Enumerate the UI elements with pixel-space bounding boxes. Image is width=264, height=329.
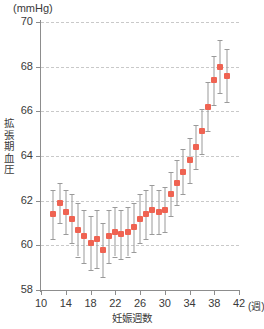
error-bar-cap [88,216,93,217]
error-bar-cap [63,190,68,191]
error-bar-cap [76,257,81,258]
error-bar-cap [107,263,112,264]
y-axis-tick [36,111,41,112]
data-point [94,236,100,242]
y-axis-tick-label: 68 [21,60,33,72]
y-axis-title: 拡張期血圧 [2,118,16,176]
data-point [106,233,112,239]
error-bar-cap [193,169,198,170]
error-bar-cap [113,207,118,208]
data-point [149,207,155,213]
data-point [131,224,137,230]
x-axis-tick-label: 34 [183,297,195,309]
error-bar-cap [181,149,186,150]
error-bar-cap [175,160,180,161]
data-point [180,169,186,175]
error-bar-cap [57,183,62,184]
x-axis-tick-label: 42 [233,297,245,309]
error-bar-cap [107,210,112,211]
error-bar-cap [150,234,155,235]
data-point [224,73,230,79]
x-axis-tick-label: 10 [35,297,47,309]
y-axis-title-char: 拡 [2,118,16,130]
error-bar-cap [69,243,74,244]
data-point [199,128,205,134]
plot-area: 58606264666870101418222630343842(週) [41,22,239,290]
data-point [75,227,81,233]
error-bar-cap [212,105,217,106]
error-bar-cap [82,263,87,264]
y-axis-tick [36,22,41,23]
y-axis-tick-label: 60 [21,238,33,250]
x-axis-tick-label: 14 [60,297,72,309]
data-point [205,104,211,110]
gridline [41,156,239,157]
data-point [217,64,223,70]
error-bar-cap [100,223,105,224]
error-bar-cap [82,210,87,211]
x-axis-tick [214,290,215,295]
error-bar-cap [206,131,211,132]
error-bar-cap [94,268,99,269]
data-point [57,200,63,206]
data-point [81,233,87,239]
error-bar-cap [150,185,155,186]
error-bar-cap [168,216,173,217]
x-axis-tick [115,290,116,295]
x-axis-tick-label: 18 [84,297,96,309]
error-bar-cap [187,183,192,184]
data-point [143,211,149,217]
error-bar-cap [175,205,180,206]
error-bar-cap [138,243,143,244]
gridline [41,22,239,23]
x-axis-tick [91,290,92,295]
data-point [187,157,193,163]
error-bar-cap [88,270,93,271]
error-bar-cap [199,154,204,155]
error-bar-cap [119,259,124,260]
data-point [162,207,168,213]
data-point [69,216,75,222]
data-point [100,247,106,253]
error-bar-cap [131,203,136,204]
data-point [211,77,217,83]
data-point [112,229,118,235]
gridline [41,245,239,246]
x-axis-tick [66,290,67,295]
error-bar-cap [144,239,149,240]
data-point [193,144,199,150]
error-bar-cap [162,187,167,188]
error-bar-cap [57,223,62,224]
y-axis-tick [36,201,41,202]
error-bar-cap [138,194,143,195]
x-axis-tick-label: 38 [208,297,220,309]
gridline [41,67,239,68]
diastolic-bp-chart: (mmHg) 拡張期血圧 586062646668701014182226303… [0,0,264,329]
y-axis-title-char: 圧 [2,164,16,176]
data-point [118,231,124,237]
error-bar-cap [156,234,161,235]
error-bar-cap [193,125,198,126]
data-point [174,180,180,186]
error-bar-cap [224,102,229,103]
y-axis-tick-label: 70 [21,15,33,27]
y-axis-title-char: 期 [2,141,16,153]
error-bar-cap [69,194,74,195]
error-bar-cap [224,49,229,50]
error-bar-cap [162,232,167,233]
x-axis-tick-label: 22 [109,297,121,309]
x-axis-tick [190,290,191,295]
x-axis-tick [41,290,42,295]
error-bar-cap [125,257,130,258]
error-bar-cap [181,194,186,195]
error-bar-cap [218,40,223,41]
data-point [137,216,143,222]
gridline [41,111,239,112]
y-axis-tick-label: 66 [21,104,33,116]
data-point [63,209,69,215]
error-bar-cap [199,109,204,110]
y-axis-tick-label: 58 [21,283,33,295]
error-bar-cap [76,203,81,204]
data-point [125,229,131,235]
error-bar-cap [187,138,192,139]
